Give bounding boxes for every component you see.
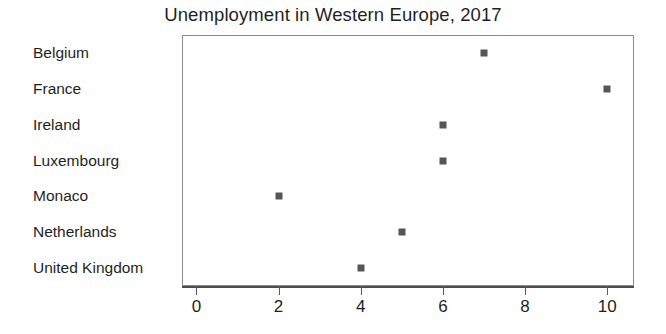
data-point [439, 121, 446, 128]
y-axis-category-labels: BelgiumFranceIrelandLuxembourgMonacoNeth… [0, 35, 176, 286]
x-axis-tick-label: 4 [356, 297, 365, 316]
y-axis-tick-label: Belgium [33, 45, 89, 61]
data-point [398, 229, 405, 236]
y-axis-tick-label: Luxembourg [33, 153, 119, 169]
x-axis-tick-mark [196, 286, 197, 295]
data-point [604, 85, 611, 92]
chart-title: Unemployment in Western Europe, 2017 [0, 2, 666, 28]
x-axis: 0246810 [182, 286, 634, 334]
x-axis-tick-mark [279, 286, 280, 295]
x-axis-tick-label: 2 [274, 297, 283, 316]
x-axis-tick-mark [525, 286, 526, 295]
y-axis-tick-label: Netherlands [33, 224, 117, 240]
scatter-chart: Unemployment in Western Europe, 2017 Bel… [0, 0, 666, 334]
data-point [275, 193, 282, 200]
x-axis-tick-label: 8 [520, 297, 529, 316]
x-axis-line [182, 286, 634, 288]
x-axis-tick-label: 10 [598, 297, 617, 316]
x-axis-tick-mark [443, 286, 444, 295]
y-axis-tick-label: Ireland [33, 117, 80, 133]
y-axis-tick-label: United Kingdom [33, 260, 143, 276]
data-point [481, 49, 488, 56]
plot-area [182, 35, 634, 286]
x-axis-tick-label: 0 [192, 297, 201, 316]
data-point [357, 265, 364, 272]
x-axis-tick-mark [607, 286, 608, 295]
y-axis-tick-label: Monaco [33, 189, 88, 205]
data-point [439, 157, 446, 164]
y-axis-tick-label: France [33, 81, 81, 97]
x-axis-tick-label: 6 [438, 297, 447, 316]
x-axis-tick-mark [361, 286, 362, 295]
